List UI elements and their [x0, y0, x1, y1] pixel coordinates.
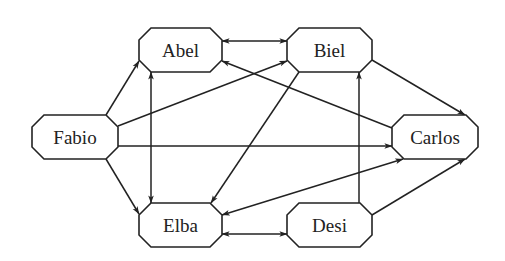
node-desi-label: Desi: [312, 215, 347, 236]
node-elba: Elba: [139, 203, 222, 247]
node-carlos-label: Carlos: [410, 127, 460, 148]
node-fabio: Fabio: [32, 115, 118, 159]
node-biel: Biel: [287, 28, 372, 72]
node-desi: Desi: [287, 203, 372, 247]
edge-fabio-abel: [106, 61, 139, 115]
node-abel: Abel: [139, 28, 222, 72]
node-fabio-label: Fabio: [53, 127, 96, 148]
graph-diagram: Abel Biel Fabio Carlos Elba Desi: [0, 0, 505, 261]
edge-biel-elba: [211, 72, 299, 203]
edge-desi-carlos: [372, 159, 465, 215]
node-carlos: Carlos: [392, 115, 478, 159]
node-abel-label: Abel: [162, 40, 199, 61]
edge-biel-carlos: [372, 60, 465, 115]
node-elba-label: Elba: [163, 215, 198, 236]
node-biel-label: Biel: [314, 40, 346, 61]
edge-fabio-elba: [106, 159, 139, 214]
